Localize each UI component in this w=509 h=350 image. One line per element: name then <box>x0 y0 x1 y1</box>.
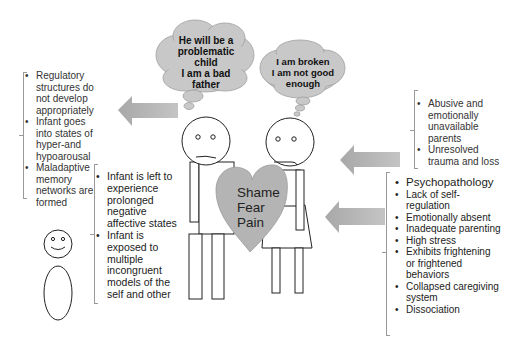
mother-thought-text: I am broken I am not good enough <box>265 56 341 89</box>
mother-thought-line: I am not good <box>265 67 341 78</box>
heart-word-pain: Pain <box>237 215 280 230</box>
mother-thought-line: enough <box>265 78 341 89</box>
list-item: Infant is left to experience prolonged n… <box>93 171 183 230</box>
list-item: Abusive and emotionally unavailable pare… <box>414 98 506 144</box>
heart-text: Shame Fear Pain <box>237 185 280 230</box>
infant-figure <box>44 230 72 320</box>
list-item: Psychopathology <box>392 177 509 189</box>
list-item: Infant goes into states of hyper-and hyp… <box>22 116 96 162</box>
father-thought-line: I am a bad <box>170 68 242 79</box>
mother-thought-line: I am broken <box>265 56 341 67</box>
list-item: Exhibits frightening or frightened behav… <box>392 246 509 281</box>
heart-word-fear: Fear <box>237 200 280 215</box>
right-traits-list: Psychopathology Lack of self-regulation … <box>392 177 509 315</box>
list-item: Inadequate parenting <box>392 223 509 235</box>
father-thought-line: He will be a <box>170 35 242 46</box>
left-effects-list: Regulatory structures do not develop app… <box>22 70 96 208</box>
father-thought-line: child <box>170 57 242 68</box>
arrow-right-bottom <box>325 201 385 233</box>
list-item: Unresolved trauma and loss <box>414 144 506 167</box>
list-item: Regulatory structures do not develop app… <box>22 70 96 116</box>
arrow-left-top <box>118 96 178 126</box>
list-item: Maladaptive memory networks are formed <box>22 162 96 208</box>
arrow-right-top <box>340 145 400 175</box>
infant-experience-list: Infant is left to experience prolonged n… <box>93 171 183 301</box>
right-origins-list: Abusive and emotionally unavailable pare… <box>414 98 506 167</box>
father-thought-line: problematic <box>170 46 242 57</box>
father-thought-line: father <box>170 79 242 90</box>
heart-word-shame: Shame <box>237 185 280 200</box>
list-item: Infant is exposed to multiple incongruen… <box>93 230 183 301</box>
list-item: High stress <box>392 235 509 247</box>
list-item: Collapsed caregiving system <box>392 281 509 304</box>
father-thought-text: He will be a problematic child I am a ba… <box>170 35 242 90</box>
list-item: Emotionally absent <box>392 212 509 224</box>
right-traits-bracket <box>386 172 387 336</box>
list-item: Lack of self-regulation <box>392 189 509 212</box>
list-item: Dissociation <box>392 304 509 316</box>
